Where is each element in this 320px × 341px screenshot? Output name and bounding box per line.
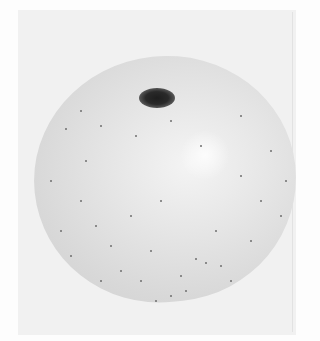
speckle [185, 290, 187, 292]
speckle [50, 180, 52, 182]
speckle [130, 215, 132, 217]
speckle [95, 225, 97, 227]
speckle [195, 258, 197, 260]
speckle [280, 215, 282, 217]
speckle [150, 250, 152, 252]
speckle [160, 200, 162, 202]
speckle [285, 180, 287, 182]
apple-stem-cavity [139, 88, 175, 108]
speckle [180, 275, 182, 277]
speckle [80, 200, 82, 202]
speckle [60, 230, 62, 232]
speckle [260, 200, 262, 202]
speckle [250, 240, 252, 242]
speckle [170, 295, 172, 297]
speckle [240, 175, 242, 177]
speckle [100, 125, 102, 127]
speckle [240, 115, 242, 117]
speckle [80, 110, 82, 112]
speckle [110, 245, 112, 247]
speckle [100, 280, 102, 282]
speckle [230, 280, 232, 282]
speckle [155, 300, 157, 302]
speckle [85, 160, 87, 162]
speckle [200, 145, 202, 147]
speckle [120, 270, 122, 272]
speckle [170, 120, 172, 122]
speckle [270, 150, 272, 152]
speckle [70, 255, 72, 257]
speckle [215, 230, 217, 232]
speckle [140, 280, 142, 282]
speckle [65, 128, 67, 130]
speckle [135, 135, 137, 137]
speckle [220, 265, 222, 267]
apple-highlight [180, 130, 230, 180]
speckle [205, 262, 207, 264]
